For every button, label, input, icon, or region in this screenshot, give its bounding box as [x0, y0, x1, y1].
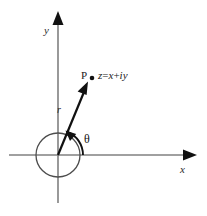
point-p-label: P	[81, 70, 87, 81]
diagram-canvas	[0, 0, 207, 216]
y-axis-label: y	[44, 25, 49, 36]
x-axis-label: x	[180, 164, 185, 175]
y-axis-arrowhead-icon	[53, 11, 64, 25]
radius-vector-arrowhead-icon	[78, 82, 88, 96]
angle-label: θ	[84, 133, 90, 145]
argand-diagram: y x r θ P z=x+iy	[0, 0, 207, 216]
point-p-marker	[90, 76, 95, 81]
complex-number-expression: z=x+iy	[98, 70, 128, 81]
x-axis-arrowhead-icon	[183, 150, 197, 161]
expression-iy: iy	[120, 69, 128, 81]
radius-label: r	[57, 105, 61, 115]
